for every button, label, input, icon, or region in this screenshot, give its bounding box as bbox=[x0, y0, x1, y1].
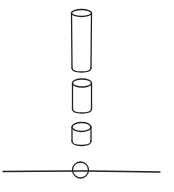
medium-cylinder bbox=[73, 79, 92, 113]
short-cylinder bbox=[72, 123, 91, 146]
diagram-canvas bbox=[0, 0, 174, 192]
medium-cylinder-top bbox=[73, 79, 92, 87]
tall-cylinder-top bbox=[72, 10, 92, 17]
medium-cylinder-bottom bbox=[73, 109, 92, 113]
tall-cylinder bbox=[72, 10, 92, 73]
short-cylinder-bottom bbox=[72, 141, 91, 146]
tall-cylinder-right-side bbox=[91, 13, 92, 68]
tall-cylinder-left-side bbox=[72, 13, 73, 68]
base-circle bbox=[73, 162, 89, 178]
short-cylinder-top bbox=[72, 123, 91, 132]
tall-cylinder-bottom bbox=[72, 68, 91, 72]
